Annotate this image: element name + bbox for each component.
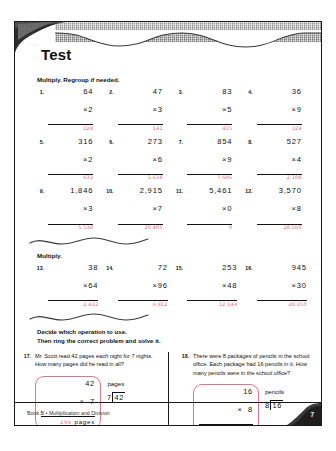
worksheet-page: Test Multiply. Regroup if needed. 1. 64 …: [14, 21, 322, 426]
answer-handwritten[interactable]: 20,405: [118, 225, 163, 231]
multiplier: 4: [297, 155, 302, 164]
dividend: 42: [112, 392, 125, 402]
answer-handwritten[interactable]: 28,560: [257, 225, 302, 231]
problem-stack: 72 ×96 6,912: [118, 264, 168, 308]
answer-handwritten[interactable]: 6,912: [118, 301, 168, 307]
division-choice[interactable]: pages 742: [101, 376, 131, 405]
multiplicand: 16: [199, 388, 253, 397]
multiplicand: 47: [118, 88, 163, 97]
answer-handwritten[interactable]: 0: [187, 225, 232, 231]
multiplier-line: ×7: [118, 196, 163, 224]
squiggle-divider: [29, 313, 149, 322]
problem-item: 1. 64 ×2 128: [33, 88, 103, 132]
problem-stack: 2,915 ×7 20,405: [118, 187, 163, 231]
problem-item: 3. 83 ×5 415: [172, 88, 242, 132]
multiplicand: 36: [257, 88, 302, 97]
multiplier-line: ×9: [187, 147, 232, 175]
problem-number: 9.: [33, 187, 44, 194]
problem-number: 14.: [103, 264, 114, 271]
problem-item: 12. 3,570 ×8 28,560: [242, 187, 312, 231]
problem-number: 1.: [33, 88, 44, 95]
word-problem-instructions: Decide which operation to use. Then ring…: [37, 328, 311, 346]
problem-number: 10.: [103, 187, 114, 194]
problem-text: Mr. Scott read 42 pages each night for 7…: [35, 352, 160, 369]
multiplier-line: ×0: [187, 196, 232, 224]
answer-handwritten[interactable]: 128: [48, 125, 93, 131]
multiplicand: 5,461: [187, 187, 232, 196]
problem-text: There were 8 packages of pencils in the …: [193, 352, 313, 377]
problem-item: 8. 527 ×4 2,108: [242, 138, 312, 182]
problem-number: 13.: [33, 264, 44, 271]
multiplier-line: ×2: [48, 97, 93, 125]
page-title: Test: [41, 46, 72, 63]
problem-stack: 273 ×6 1,638: [118, 138, 163, 182]
answer-handwritten[interactable]: 1,638: [118, 175, 163, 181]
multiplier: 3: [88, 204, 93, 213]
problem-stack: 945 ×30 28,350: [257, 264, 307, 308]
section-heading-multiply-regroup: Multiply. Regroup if needed.: [37, 76, 311, 83]
multiplier-line: ×3: [48, 196, 93, 224]
problem-number: 5.: [33, 138, 44, 145]
multiplier-line: ×9: [257, 97, 302, 125]
problem-item: 4. 36 ×9 324: [242, 88, 312, 132]
answer-handwritten[interactable]: 2,432: [48, 301, 98, 307]
problem-stack: 854 ×9 7,686: [187, 138, 232, 182]
unit-label: pages: [107, 380, 125, 387]
problem-stack: 316 ×2 632: [48, 138, 93, 182]
problem-stack: 1,846 ×3 5,538: [48, 187, 93, 231]
multiplier: 8: [297, 204, 302, 213]
problem-item: 6. 273 ×6 1,638: [103, 138, 173, 182]
problem-number: 4.: [242, 88, 253, 95]
unit-label: pencils: [265, 388, 284, 395]
problem-item: 2. 47 ×3 141: [103, 88, 173, 132]
word-problem-header: 17. Mr. Scott read 42 pages each night f…: [19, 352, 160, 369]
multiplicand: 64: [48, 88, 93, 97]
multiplicand: 273: [118, 138, 163, 147]
multiplicand: 83: [187, 88, 232, 97]
problem-row: 9. 1,846 ×3 5,538 10. 2,915 ×7 20,405: [33, 187, 311, 231]
problem-number: 8.: [242, 138, 253, 145]
section-heading-multiply: Multiply.: [37, 252, 311, 259]
answer-handwritten[interactable]: 12,144: [187, 301, 237, 307]
multiplier: 96: [158, 281, 168, 290]
problem-stack: 47 ×3 141: [118, 88, 163, 132]
multiplier-line: ×4: [257, 147, 302, 175]
answer-handwritten[interactable]: 28,350: [257, 301, 307, 307]
problem-item: 13. 38 ×64 2,432: [33, 264, 103, 308]
problem-number: 15.: [172, 264, 183, 271]
answer-line: 128 pencils: [199, 425, 253, 426]
multiplicand: 945: [257, 264, 307, 273]
problem-number: 7.: [172, 138, 183, 145]
problem-item: 5. 316 ×2 632: [33, 138, 103, 182]
multiplier: 64: [88, 281, 98, 290]
problem-stack: 64 ×2 128: [48, 88, 93, 132]
problem-stack: 83 ×5 415: [187, 88, 232, 132]
multiplier: 30: [297, 281, 307, 290]
multiplier: 2: [88, 105, 93, 114]
multiplier: 7: [158, 204, 163, 213]
problem-item: 9. 1,846 ×3 5,538: [33, 187, 103, 231]
answer-handwritten[interactable]: 324: [257, 125, 302, 131]
answer-handwritten[interactable]: 2,108: [257, 175, 302, 181]
answer-handwritten[interactable]: 415: [187, 125, 232, 131]
problem-stack: 36 ×9 324: [257, 88, 302, 132]
multiplicand: 854: [187, 138, 232, 147]
multiplicand: 527: [257, 138, 302, 147]
multiplier-line: ×5: [187, 97, 232, 125]
answer-handwritten[interactable]: 7,686: [187, 175, 232, 181]
answer-handwritten[interactable]: 141: [118, 125, 163, 131]
multiplicand: 1,846: [48, 187, 93, 196]
page-number: 7: [310, 411, 314, 418]
multiplier-line: ×8: [257, 196, 302, 224]
page-footer: Book B • Multiplication and Division 7: [15, 402, 321, 425]
multiplicand: 42: [41, 380, 95, 389]
page-corner-shape: [287, 403, 321, 425]
answer-handwritten[interactable]: 632: [48, 175, 93, 181]
squiggle-divider: [29, 237, 149, 246]
problem-number: 12.: [242, 187, 253, 194]
multiplier-line: ×2: [48, 147, 93, 175]
problem-stack: 527 ×4 2,108: [257, 138, 302, 182]
answer-handwritten[interactable]: 5,538: [48, 225, 93, 231]
problem-stack: 3,570 ×8 28,560: [257, 187, 302, 231]
problem-number: 11.: [172, 187, 183, 194]
